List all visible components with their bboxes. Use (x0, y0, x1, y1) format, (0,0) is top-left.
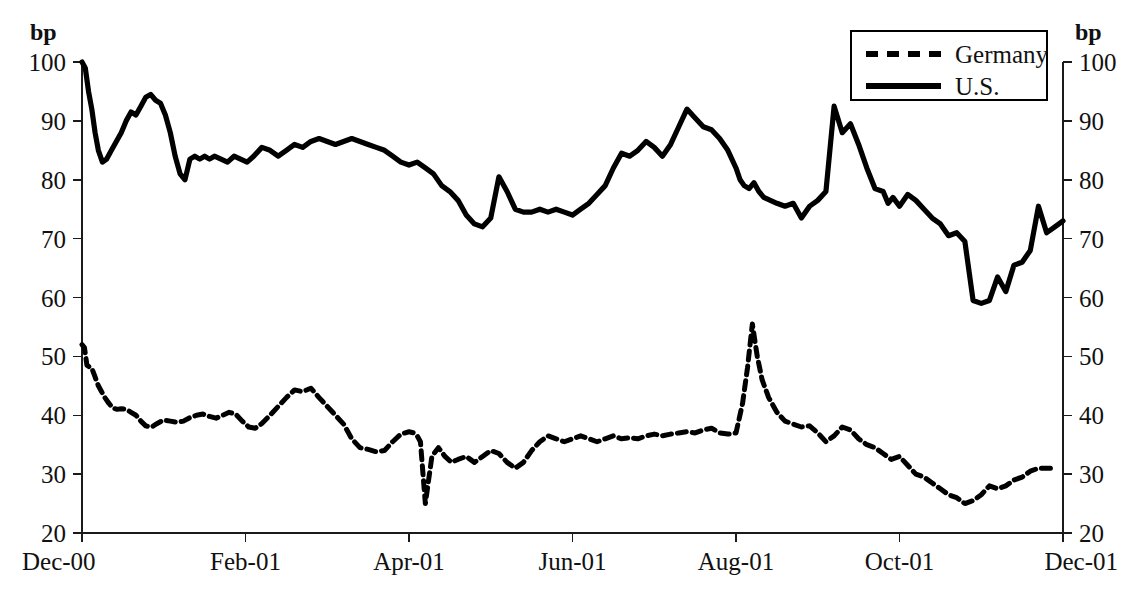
right-tick-label: 20 (1079, 520, 1104, 547)
left-tick-label: 20 (41, 520, 66, 547)
right-tick-label: 30 (1079, 461, 1104, 488)
x-tick-label: Aug-01 (698, 548, 774, 575)
left-axis-unit-label: bp (30, 19, 57, 45)
left-tick-label: 70 (41, 226, 66, 253)
x-tick-label: Jun-01 (538, 548, 606, 575)
left-tick-label: 100 (29, 49, 67, 76)
legend-label-germany: Germany (955, 41, 1049, 68)
left-tick-label: 90 (41, 108, 66, 135)
right-tick-label: 80 (1079, 167, 1104, 194)
right-axis-unit-label: bp (1075, 19, 1102, 45)
right-tick-label: 40 (1079, 402, 1104, 429)
left-tick-label: 80 (41, 167, 66, 194)
legend: Germany U.S. (851, 31, 1049, 100)
x-tick-label: Dec-01 (1044, 548, 1118, 575)
right-tick-label: 90 (1079, 108, 1104, 135)
x-tick-label: Dec-00 (22, 548, 96, 575)
right-axis-ticks: 2030405060708090100 (1063, 49, 1117, 547)
left-tick-label: 40 (41, 402, 66, 429)
chart-container: bp bp 2030405060708090100 20304050607080… (0, 0, 1121, 599)
right-tick-label: 60 (1079, 285, 1104, 312)
left-tick-label: 60 (41, 285, 66, 312)
x-tick-label: Oct-01 (865, 548, 934, 575)
x-tick-label: Apr-01 (373, 548, 445, 575)
x-axis-ticks: Dec-00Feb-01Apr-01Jun-01Aug-01Oct-01Dec-… (22, 533, 1118, 575)
left-axis-ticks: 2030405060708090100 (29, 49, 83, 547)
right-tick-label: 100 (1079, 49, 1117, 76)
x-tick-label: Feb-01 (210, 548, 281, 575)
legend-label-us: U.S. (955, 73, 999, 100)
right-tick-label: 50 (1079, 343, 1104, 370)
left-tick-label: 50 (41, 343, 66, 370)
left-tick-label: 30 (41, 461, 66, 488)
line-chart: bp bp 2030405060708090100 20304050607080… (0, 0, 1121, 599)
right-tick-label: 70 (1079, 226, 1104, 253)
series-line-germany (82, 324, 1055, 504)
